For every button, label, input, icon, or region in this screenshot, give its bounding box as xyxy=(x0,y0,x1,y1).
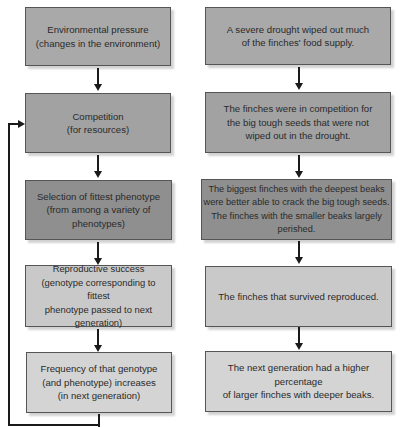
arrow-down-icon xyxy=(298,327,300,345)
arrow-right-icon xyxy=(18,120,25,128)
box-text: Frequency of that genotype (and phenotyp… xyxy=(41,362,158,402)
box-reproductive-success: Reproductive success (genotype correspon… xyxy=(25,265,172,327)
arrow-down-icon xyxy=(97,68,99,86)
arrow-down-icon xyxy=(298,241,300,259)
box-environmental-pressure: Environmental pressure (changes in the e… xyxy=(25,7,171,66)
arrow-down-icon xyxy=(298,67,300,85)
box-text: The finches were in competition for the … xyxy=(224,102,373,142)
box-next-generation: The next generation had a higher percent… xyxy=(205,351,392,412)
arrow-down-icon xyxy=(97,242,99,260)
feedback-line-bottom xyxy=(8,424,99,426)
box-text: The biggest finches with the deepest bea… xyxy=(203,183,390,237)
arrow-down-icon xyxy=(97,155,99,173)
box-text: Environmental pressure (changes in the e… xyxy=(36,23,160,50)
box-frequency-increase: Frequency of that genotype (and phenotyp… xyxy=(26,352,172,413)
box-text: The next generation had a higher percent… xyxy=(210,361,387,401)
box-text: Competition (for resources) xyxy=(67,110,129,137)
box-text: Reproductive success (genotype correspon… xyxy=(30,262,167,329)
box-text: Selection of fittest phenotype (from amo… xyxy=(30,190,167,230)
box-competition: Competition (for resources) xyxy=(25,93,171,153)
box-text: The finches that survived reproduced. xyxy=(218,290,379,303)
box-finch-selection: The biggest finches with the deepest bea… xyxy=(201,179,392,240)
arrow-down-icon xyxy=(97,329,99,347)
box-finch-competition: The finches were in competition for the … xyxy=(205,92,391,153)
box-text: A severe drought wiped out much of the f… xyxy=(227,23,369,50)
arrow-down-icon xyxy=(298,155,300,173)
box-finch-reproduced: The finches that survived reproduced. xyxy=(205,266,392,327)
box-drought: A severe drought wiped out much of the f… xyxy=(205,7,391,65)
feedback-line-vertical xyxy=(8,123,10,425)
box-selection: Selection of fittest phenotype (from amo… xyxy=(25,180,172,240)
